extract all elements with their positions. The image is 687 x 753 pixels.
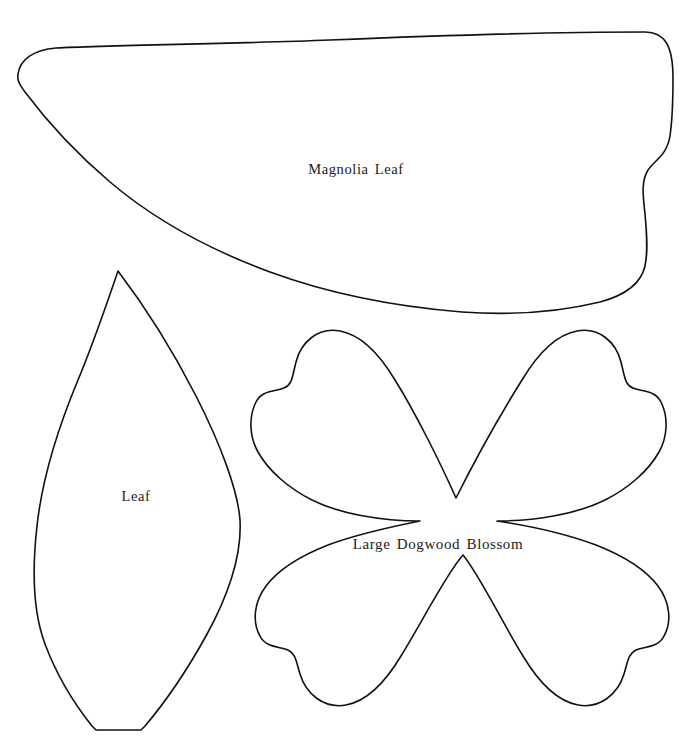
magnolia-leaf-label: Magnolia Leaf: [308, 161, 404, 178]
dogwood-blossom-outline: [251, 330, 669, 705]
pattern-shapes-canvas: [0, 0, 687, 753]
pattern-sheet: Magnolia Leaf Leaf Large Dogwood Blossom: [0, 0, 687, 753]
dogwood-blossom-label: Large Dogwood Blossom: [353, 536, 523, 553]
leaf-label: Leaf: [122, 488, 151, 505]
